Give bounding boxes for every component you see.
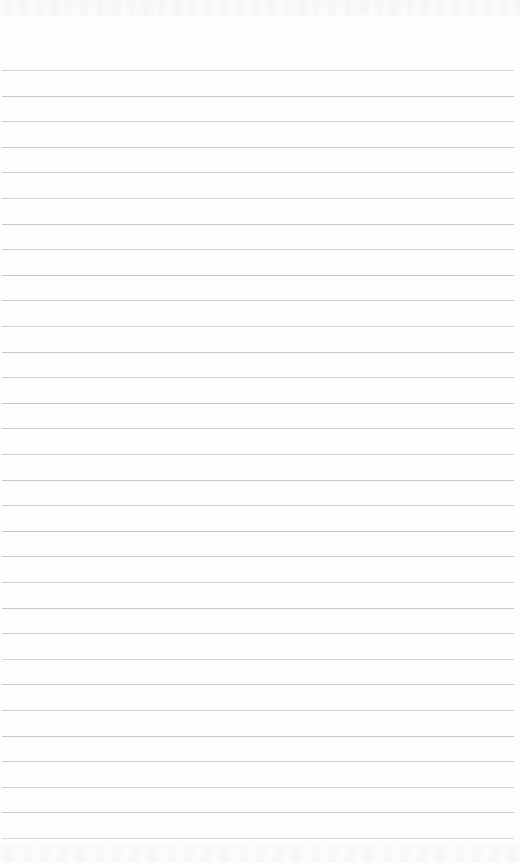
ruled-line [2, 480, 514, 481]
ruled-line [2, 787, 514, 788]
ruled-line [2, 249, 514, 250]
ruled-line [2, 275, 514, 276]
ruled-line [2, 300, 514, 301]
ruled-line [2, 121, 514, 122]
ruled-line [2, 608, 514, 609]
ruled-line [2, 761, 514, 762]
notebook-page [0, 0, 520, 863]
ruled-line [2, 838, 514, 839]
ruled-line [2, 224, 514, 225]
ruled-line [2, 812, 514, 813]
ruled-line [2, 454, 514, 455]
ruled-line [2, 377, 514, 378]
ruled-line [2, 172, 514, 173]
ruled-line [2, 198, 514, 199]
ruled-line [2, 531, 514, 532]
ruled-line [2, 582, 514, 583]
ruled-line [2, 326, 514, 327]
ruled-line [2, 428, 514, 429]
ruled-line [2, 633, 514, 634]
ruled-line [2, 352, 514, 353]
ruled-line [2, 147, 514, 148]
ruled-line [2, 505, 514, 506]
ruled-line [2, 736, 514, 737]
ruled-line [2, 710, 514, 711]
ruled-line [2, 556, 514, 557]
ruled-line [2, 403, 514, 404]
ruled-line [2, 684, 514, 685]
ruled-line-layer [0, 0, 520, 863]
ruled-line [2, 96, 514, 97]
ruled-line [2, 70, 514, 71]
ruled-line [2, 659, 514, 660]
